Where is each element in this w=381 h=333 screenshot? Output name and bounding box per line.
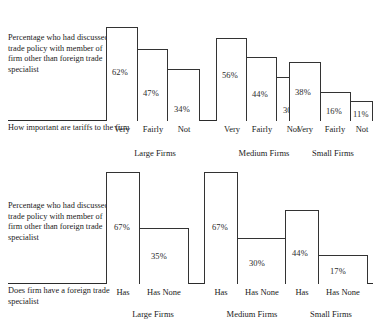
grouped-bar-chart-figure: Percentage who had discussed trade polic… xyxy=(0,0,381,333)
top-chart-panel: Percentage who had discussed trade polic… xyxy=(0,0,381,170)
bar-value-medium-fairly: 44% xyxy=(252,89,268,99)
group-label-small-bottom: Small Firms xyxy=(288,309,374,319)
bar-value-large-fairly: 47% xyxy=(143,88,159,98)
tick-label-small-not: Not xyxy=(347,124,377,134)
tick-label-large-not: Not xyxy=(167,124,201,134)
bottom-chart-y-axis-label: Percentage who had discussed trade polic… xyxy=(8,201,116,243)
tick-label-small-has: Has xyxy=(284,287,320,297)
bar-value-small-fairly: 16% xyxy=(326,106,342,116)
tick-label-medium-has-none: Has None xyxy=(236,287,288,297)
bar-value-medium-has-none: 30% xyxy=(249,258,265,268)
bar-value-small-has-none: 17% xyxy=(330,266,346,276)
bottom-chart-x-axis-question: Does firm have a foreign trade specialis… xyxy=(8,286,138,307)
bar-value-medium-very: 56% xyxy=(222,70,238,80)
bar-value-large-not: 34% xyxy=(174,104,190,114)
group-label-large-bottom: Large Firms xyxy=(108,309,198,319)
bar-value-small-very: 38% xyxy=(295,87,311,97)
bar-value-large-very: 62% xyxy=(112,67,128,77)
bar-large-fairly xyxy=(137,49,168,121)
bottom-chart-panel: Percentage who had discussed trade polic… xyxy=(0,170,381,333)
top-chart-y-axis-label: Percentage who had discussed trade polic… xyxy=(8,33,116,75)
bar-value-large-has: 67% xyxy=(114,222,130,232)
tick-label-small-has-none: Has None xyxy=(317,287,369,297)
bar-value-large-has-none: 35% xyxy=(151,251,167,261)
group-label-large-top: Large Firms xyxy=(110,148,200,158)
top-chart-x-axis-question: How important are tariffs to the firm xyxy=(8,123,138,134)
group-label-medium-bottom: Medium Firms xyxy=(206,309,298,319)
tick-label-large-has-none: Has None xyxy=(138,287,190,297)
bar-value-small-not: 11% xyxy=(353,109,369,119)
bar-value-small-has: 44% xyxy=(292,248,308,258)
tick-label-medium-has: Has xyxy=(203,287,239,297)
bar-value-medium-has: 67% xyxy=(212,222,228,232)
group-label-small-top: Small Firms xyxy=(290,148,376,158)
bar-small-has xyxy=(285,210,319,284)
